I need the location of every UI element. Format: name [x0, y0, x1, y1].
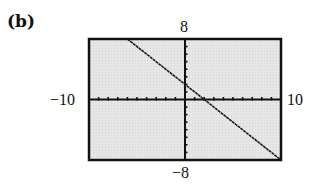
- graph-plot: [0, 0, 312, 190]
